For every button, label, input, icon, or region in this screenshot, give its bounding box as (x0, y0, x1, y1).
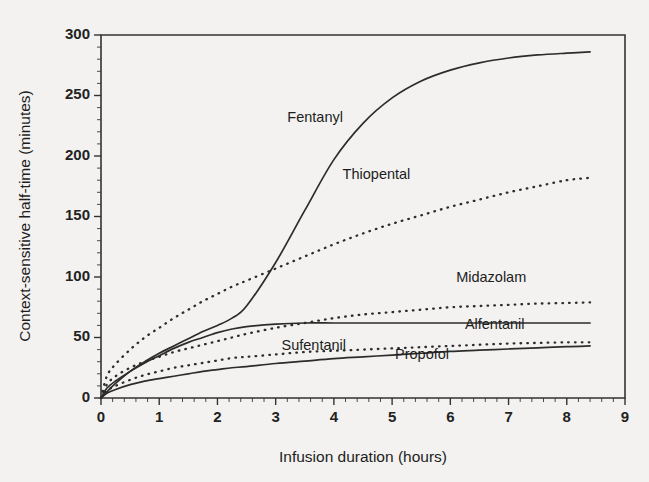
curve-alfentanil (101, 323, 590, 398)
curve-thiopental (101, 178, 590, 398)
x-tick-label: 6 (446, 408, 454, 425)
x-tick-label: 0 (97, 408, 105, 425)
x-tick-label: 4 (330, 408, 339, 425)
series-label-thiopental: Thiopental (343, 166, 411, 182)
y-tick-label: 50 (73, 327, 90, 344)
x-tick-label: 7 (504, 408, 512, 425)
series-labels: FentanylThiopentalMidazolamAlfentanilSuf… (281, 109, 526, 362)
x-tick-label: 1 (155, 408, 163, 425)
series-label-fentanyl: Fentanyl (287, 109, 343, 125)
y-tick-label: 300 (65, 25, 90, 42)
y-tick-label: 150 (65, 206, 90, 223)
x-tick-label: 3 (271, 408, 279, 425)
major-tick-marks (94, 35, 625, 405)
x-tick-label: 2 (213, 408, 221, 425)
y-tick-label: 250 (65, 85, 90, 102)
y-axis-title: Context-sensitive half-time (minutes) (16, 90, 33, 342)
x-axis-title: Infusion duration (hours) (279, 448, 447, 465)
series-label-propofol: Propofol (395, 346, 449, 362)
x-tick-label: 5 (388, 408, 396, 425)
y-tick-label: 100 (65, 267, 90, 284)
y-tick-label: 0 (82, 388, 90, 405)
series-label-sufentanil: Sufentanil (281, 337, 346, 353)
y-tick-label: 200 (65, 146, 90, 163)
curve-propofol (101, 346, 590, 398)
x-tick-label: 9 (621, 408, 629, 425)
chart-figure: 0501001502002503000123456789 FentanylThi… (0, 0, 649, 482)
series-label-midazolam: Midazolam (456, 269, 526, 285)
context-sensitive-half-time-chart: 0501001502002503000123456789 FentanylThi… (0, 0, 649, 482)
tick-labels: 0501001502002503000123456789 (65, 25, 629, 425)
series-label-alfentanil: Alfentanil (465, 316, 525, 332)
x-tick-label: 8 (563, 408, 571, 425)
